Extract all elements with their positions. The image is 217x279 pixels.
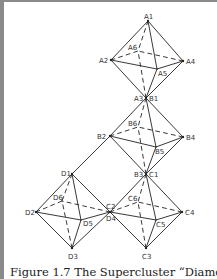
label-b6: B6 (128, 120, 138, 128)
label-d5: D5 (83, 220, 93, 228)
label-d6: D6 (53, 194, 63, 202)
label-c4: C4 (185, 209, 195, 217)
label-a4: A4 (186, 58, 196, 66)
label-d1: D1 (61, 170, 71, 178)
label-c1: C1 (149, 171, 158, 179)
label-a2: A2 (99, 57, 108, 65)
label-c5: C5 (156, 221, 165, 229)
label-a3: A3 (134, 95, 143, 103)
label-b3: B3 (134, 171, 143, 179)
label-d2: D2 (25, 209, 35, 217)
octahedron-d (36, 174, 110, 248)
octahedron-c (110, 174, 182, 248)
label-a6: A6 (128, 44, 138, 52)
figure-caption: Figure 1.7 The Supercluster “Diamond (10, 265, 217, 279)
supercluster-diamond-diagram: A1 A2 A4 A5 A6 A3 B1 B2 B4 B5 B6 B3 C1 D… (0, 0, 217, 279)
label-c2: C2 (106, 203, 115, 211)
label-a5: A5 (158, 70, 167, 78)
connector-b2-d1 (72, 136, 110, 174)
label-b5: B5 (155, 148, 164, 156)
label-d4: D4 (106, 215, 116, 223)
octahedron-a (111, 21, 183, 98)
label-d3: D3 (68, 253, 78, 261)
octahedron-b (110, 98, 183, 174)
label-b4: B4 (186, 134, 196, 142)
label-c3: C3 (142, 253, 151, 261)
label-b2: B2 (97, 133, 106, 141)
label-c6: C6 (128, 195, 138, 203)
label-a1: A1 (144, 13, 153, 21)
label-b1: B1 (149, 95, 158, 103)
